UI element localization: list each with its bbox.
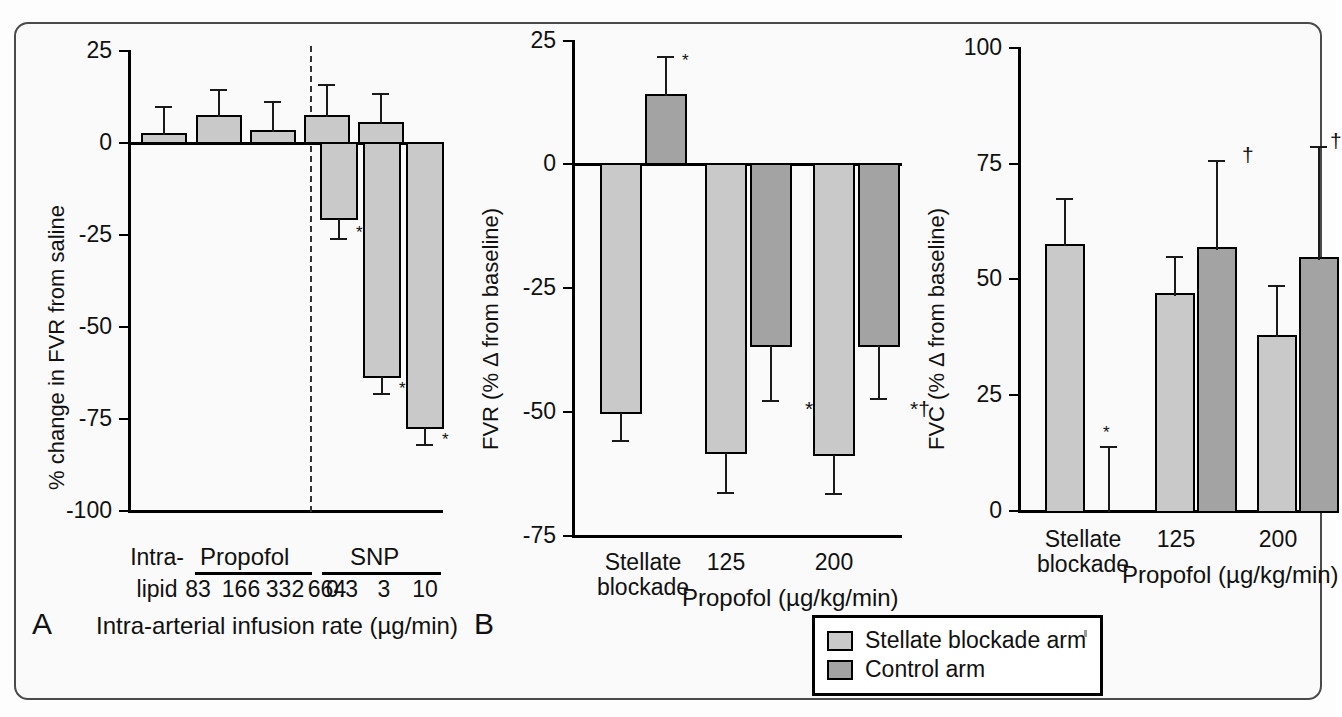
errorbar-b-200-blockade-arm — [833, 455, 835, 494]
panel-b-letter: B — [474, 607, 494, 641]
panel-c-tick-0 — [1009, 510, 1018, 512]
grouplabel-a-propofol-underline — [195, 572, 312, 575]
catlabel-c-stellate-line1: Stellate blockade — [1037, 526, 1129, 577]
errorbar-c-125-control-arm — [1216, 160, 1218, 250]
errorcap-b-200-control-arm — [870, 398, 887, 400]
errorbar-b-125-control-arm — [770, 346, 772, 401]
panel-b-ticklabel-neg75: -75 — [480, 524, 556, 547]
panel-b-ticklabel-25: 25 — [490, 29, 556, 52]
panel-b-tick-25 — [563, 40, 572, 42]
errorcap-b-200-blockade-arm — [825, 493, 842, 495]
panel-a-x-axis-label: Intra-arterial infusion rate (µg/min) — [96, 612, 458, 640]
panel-c-ticklabel-50: 50 — [936, 267, 1002, 290]
bar-b-stellate-control-arm — [645, 94, 687, 165]
errorcap-b-125-blockade-arm — [717, 492, 734, 494]
errorcap-c-125-control-arm — [1208, 160, 1225, 162]
panel-b-tick-neg75 — [563, 535, 572, 537]
scan-artifact — [1084, 630, 1087, 637]
panel-c-ticklabel-25: 25 — [936, 383, 1002, 406]
catlabel-c-200: 200 — [1244, 527, 1312, 552]
bar-c-125-blockade-arm — [1155, 293, 1195, 513]
panel-c-tick-50 — [1009, 278, 1018, 280]
legend-item-control-arm: Control arm — [827, 656, 1086, 683]
catlabel-a-intralipid-line0: Intra- — [118, 545, 196, 570]
errorbar-c-stellate-control-arm — [1108, 446, 1110, 512]
catlabel-c-125: 125 — [1142, 527, 1210, 552]
errorcap-b-stellate-control-arm — [657, 56, 674, 58]
panel-b-y-axis — [572, 40, 575, 538]
legend-swatch-light-icon — [827, 631, 853, 651]
errorbar-c-200-control-arm — [1318, 146, 1320, 260]
panel-b-x-axis-label: Propofol (µg/kg/min) — [682, 584, 899, 612]
errorbar-b-stellate-control-arm — [665, 56, 667, 96]
errorbar-c-stellate-blockade-arm — [1064, 198, 1066, 246]
panel-b-tick-neg25 — [563, 287, 572, 289]
errorcap-c-200-blockade-arm — [1268, 285, 1285, 287]
errorbar-b-stellate-blockade-arm — [620, 413, 622, 441]
bar-b-125-control-arm — [750, 163, 792, 347]
bar-b-125-blockade-arm — [705, 163, 747, 454]
errorcap-b-stellate-blockade-arm — [612, 440, 629, 442]
catlabel-b-stellate-line1: Stellate blockade — [597, 549, 689, 600]
bar-c-stellate-blockade-arm — [1045, 244, 1085, 513]
panel-b-ticklabel-neg25: -25 — [480, 276, 556, 299]
panel-b: FVR (% Δ from baseline) 25 0 -25 -50 -75… — [460, 0, 930, 717]
errorcap-b-125-control-arm — [762, 400, 779, 402]
catlabel-a-0.3: 0.3 — [316, 577, 368, 602]
catlabel-b-200: 200 — [800, 550, 868, 575]
catlabel-a-10: 10 — [404, 577, 446, 602]
bar-c-125-control-arm — [1197, 247, 1237, 513]
significance-b-stellate: * — [682, 52, 689, 69]
panel-b-tick-0 — [563, 163, 572, 165]
panel-c-ticklabel-75: 75 — [936, 152, 1002, 175]
errorcap-c-200-control-arm — [1310, 146, 1327, 148]
errorcap-c-125-blockade-arm — [1166, 256, 1183, 258]
panel-b-x-axis — [572, 535, 902, 538]
grouplabel-a-snp-underline — [322, 572, 441, 575]
panel-c-ticklabel-100: 100 — [924, 36, 1002, 59]
panel-b-ticklabel-0: 0 — [490, 152, 556, 175]
catlabel-a-332: 332 — [262, 577, 308, 602]
errorbar-c-125-blockade-arm — [1174, 256, 1176, 296]
bar-c-200-control-arm — [1299, 257, 1339, 513]
catlabel-b-125: 125 — [692, 550, 760, 575]
errorcap-c-stellate-control-arm — [1100, 446, 1117, 448]
grouplabel-a-propofol: Propofol — [200, 543, 289, 571]
catlabel-a-166: 166 — [218, 577, 264, 602]
grouplabel-a-snp: SNP — [350, 543, 399, 571]
legend: Stellate blockade arm Control arm — [812, 615, 1103, 696]
significance-c-200: † — [1330, 130, 1342, 151]
legend-label-stellate-blockade-arm: Stellate blockade arm — [865, 627, 1086, 654]
legend-item-stellate-blockade-arm: Stellate blockade arm — [827, 627, 1086, 654]
bar-b-200-control-arm — [858, 163, 900, 347]
panel-c-y-axis — [1018, 47, 1021, 513]
bar-c-200-blockade-arm — [1257, 335, 1297, 513]
panel-c-x-axis-label: Propofol (µg/kg/min) — [1122, 561, 1339, 589]
significance-c-125: † — [1242, 144, 1254, 165]
errorcap-c-stellate-blockade-arm — [1056, 198, 1073, 200]
legend-label-control-arm: Control arm — [865, 656, 985, 683]
errorbar-b-125-blockade-arm — [725, 453, 727, 493]
errorbar-c-200-blockade-arm — [1276, 285, 1278, 337]
panel-b-tick-neg50 — [563, 411, 572, 413]
legend-swatch-dark-icon — [827, 660, 853, 680]
catlabel-a-3: 3 — [366, 577, 402, 602]
panel-a-letter: A — [32, 607, 52, 641]
panel-b-ticklabel-neg50: -50 — [480, 400, 556, 423]
panel-c-tick-75 — [1009, 163, 1018, 165]
errorbar-b-200-control-arm — [878, 346, 880, 399]
panel-c-ticklabel-0: 0 — [936, 499, 1002, 522]
catlabel-a-83: 83 — [180, 577, 216, 602]
significance-c-stellate: * — [1103, 424, 1110, 441]
panel-c-y-axis-label: FVC (% Δ from baseline) — [924, 208, 950, 450]
panel-c-tick-25 — [1009, 394, 1018, 396]
panel-a-x-labels: lipid Intra- Propofol SNP 83 166 332 664… — [0, 0, 470, 717]
bar-b-stellate-blockade-arm — [600, 163, 642, 414]
panel-c-tick-100 — [1009, 47, 1018, 49]
bar-b-200-blockade-arm — [813, 163, 855, 456]
panel-c: FVC (% Δ from baseline) 100 75 50 25 0 *… — [900, 0, 1336, 717]
